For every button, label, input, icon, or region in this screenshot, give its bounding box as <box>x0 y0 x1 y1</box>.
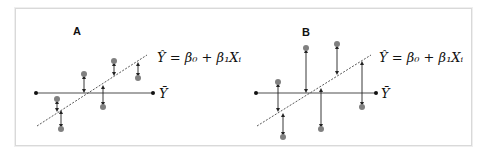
data-points <box>54 58 141 132</box>
mean-line-endpoint <box>151 91 155 95</box>
mean-line-endpoint <box>34 91 38 95</box>
panel-a: A Ŷ = β₀ + β₁Xᵢ Ȳ <box>34 25 242 132</box>
residual-arrows <box>278 47 362 134</box>
residual-arrows <box>57 64 138 126</box>
panel-b: B Ŷ = β₀ + β₁Xᵢ Ȳ <box>254 26 464 140</box>
panel-a-label: A <box>73 25 81 37</box>
regression-equation: Ŷ = β₀ + β₁Xᵢ <box>379 50 464 65</box>
regression-line <box>37 55 147 126</box>
regression-diagram: A Ŷ = β₀ + β₁Xᵢ Ȳ B <box>0 0 486 155</box>
mean-line-endpoint <box>374 91 378 95</box>
regression-equation: Ŷ = β₀ + β₁Xᵢ <box>157 50 242 65</box>
data-points <box>275 41 365 140</box>
panel-b-label: B <box>302 26 310 38</box>
mean-line-endpoint <box>254 91 258 95</box>
mean-label: Ȳ <box>381 86 391 101</box>
mean-label: Ȳ <box>159 86 169 101</box>
regression-line <box>257 55 371 126</box>
